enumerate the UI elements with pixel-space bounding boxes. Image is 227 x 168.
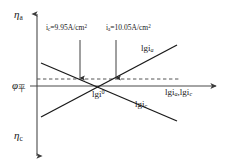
x-axis-subscript-2: c — [189, 91, 192, 97]
x-axis-label: lgia,lgic — [165, 88, 192, 97]
lg-i0-superscript: 0 — [102, 89, 105, 95]
x-axis-prefix-1: lg — [165, 87, 172, 97]
cathodic-current-annotation-label: ic=9.95A/cm2 — [46, 24, 87, 32]
ia-value-text: =10.05A/cm — [110, 23, 148, 32]
tafel-diagram-figure: ηa ηc φ平 ic=9.95A/cm2 ia=10.05A/cm2 lgia… — [0, 0, 227, 168]
ia-exponent: 2 — [148, 23, 151, 29]
lg-ia-subscript: a — [151, 47, 154, 53]
ic-value-text: =9.95A/cm — [50, 23, 84, 32]
cathodic-branch-line — [41, 63, 177, 121]
eta-anodic-label: ηa — [14, 9, 23, 21]
lg-i0-prefix: lg — [92, 89, 99, 99]
anodic-current-annotation-label: ia=10.05A/cm2 — [106, 24, 151, 32]
anodic-branch-line — [41, 45, 177, 117]
lg-ic-subscript: c — [145, 103, 148, 109]
x-axis-prefix-2: lg — [180, 87, 187, 97]
eta-anodic-subscript: a — [19, 13, 22, 22]
anodic-branch-label: lgia — [141, 44, 154, 53]
phi-subscript: 平 — [18, 84, 25, 93]
lg-ic-prefix: lg — [135, 99, 142, 109]
equilibrium-potential-label: φ平 — [12, 80, 25, 92]
exchange-current-density-label: lgi0 — [92, 89, 105, 99]
cathodic-branch-label: lgic — [135, 100, 147, 109]
ic-exponent: 2 — [84, 23, 87, 29]
eta-cathodic-label: ηc — [14, 130, 23, 142]
lg-ia-prefix: lg — [141, 43, 148, 53]
eta-cathodic-subscript: c — [19, 134, 22, 143]
